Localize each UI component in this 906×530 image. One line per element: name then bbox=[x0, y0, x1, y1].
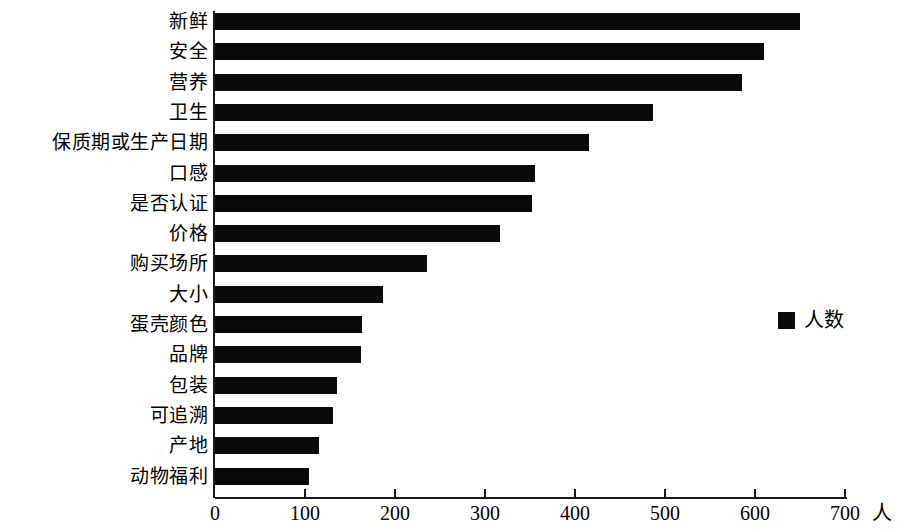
category-label: 卫生 bbox=[0, 103, 208, 122]
tick-mark bbox=[574, 489, 576, 498]
tick-label: 300 bbox=[455, 503, 515, 523]
bar bbox=[215, 104, 653, 121]
legend-label-renshu: 人数 bbox=[804, 310, 844, 330]
category-label: 包装 bbox=[0, 376, 208, 395]
bar bbox=[215, 225, 500, 242]
category-label: 可追溯 bbox=[0, 406, 208, 425]
category-label: 保质期或生产日期 bbox=[0, 133, 208, 152]
tick-mark bbox=[754, 489, 756, 498]
bar bbox=[215, 195, 532, 212]
tick-label: 100 bbox=[275, 503, 335, 523]
category-label: 大小 bbox=[0, 285, 208, 304]
bar bbox=[215, 165, 535, 182]
legend-swatch-renshu bbox=[778, 312, 795, 329]
category-label: 动物福利 bbox=[0, 467, 208, 486]
legend: 人数 bbox=[778, 310, 844, 330]
tick-mark bbox=[394, 489, 396, 498]
bar bbox=[215, 316, 362, 333]
tick-mark bbox=[304, 489, 306, 498]
category-label: 新鲜 bbox=[0, 12, 208, 31]
bar bbox=[215, 377, 337, 394]
category-axis: 新鲜安全营养卫生保质期或生产日期口感是否认证价格购买场所大小蛋壳颜色品牌包装可追… bbox=[0, 12, 208, 497]
tick-label: 600 bbox=[725, 503, 785, 523]
bar bbox=[215, 43, 764, 60]
bar bbox=[215, 13, 800, 30]
x-axis-unit-label: 人 bbox=[872, 503, 892, 523]
plot-area bbox=[215, 12, 845, 497]
category-label: 品牌 bbox=[0, 345, 208, 364]
category-label: 购买场所 bbox=[0, 254, 208, 273]
category-label: 营养 bbox=[0, 73, 208, 92]
category-label: 口感 bbox=[0, 164, 208, 183]
bar bbox=[215, 255, 427, 272]
tick-label: 500 bbox=[635, 503, 695, 523]
category-label: 产地 bbox=[0, 436, 208, 455]
bar bbox=[215, 286, 383, 303]
bar bbox=[215, 468, 309, 485]
bar bbox=[215, 437, 319, 454]
category-label: 安全 bbox=[0, 42, 208, 61]
category-label: 价格 bbox=[0, 224, 208, 243]
category-label: 是否认证 bbox=[0, 194, 208, 213]
bar bbox=[215, 407, 333, 424]
bar bbox=[215, 74, 742, 91]
tick-label: 0 bbox=[185, 503, 245, 523]
bar bbox=[215, 346, 361, 363]
bar-chart: 新鲜安全营养卫生保质期或生产日期口感是否认证价格购买场所大小蛋壳颜色品牌包装可追… bbox=[0, 0, 906, 530]
bar bbox=[215, 134, 589, 151]
tick-mark bbox=[484, 489, 486, 498]
category-label: 蛋壳颜色 bbox=[0, 315, 208, 334]
tick-label: 700 bbox=[815, 503, 875, 523]
tick-mark bbox=[844, 489, 846, 498]
tick-mark bbox=[664, 489, 666, 498]
tick-label: 200 bbox=[365, 503, 425, 523]
horizontal-axis-line bbox=[215, 497, 847, 499]
tick-label: 400 bbox=[545, 503, 605, 523]
